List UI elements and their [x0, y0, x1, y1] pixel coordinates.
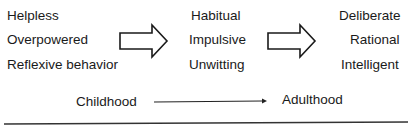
timeline-end-label: Adulthood	[282, 92, 343, 108]
diagram-shapes	[0, 0, 412, 126]
block-arrow-icon-2	[268, 25, 315, 57]
bottom-divider	[4, 122, 408, 124]
block-arrow-icon-1	[120, 25, 167, 57]
timeline-arrow-line	[154, 101, 262, 102]
timeline-arrowhead-icon	[262, 99, 267, 104]
timeline-start-label: Childhood	[76, 94, 137, 110]
